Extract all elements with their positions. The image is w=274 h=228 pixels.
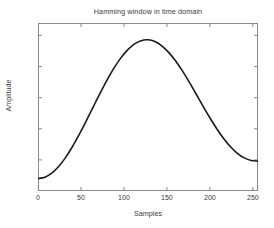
hamming-window-curve (38, 40, 258, 179)
y-axis-label: Amplitude (4, 66, 13, 126)
x-tick-label: 0 (36, 194, 40, 201)
chart-title: Hamming window in time domain (38, 7, 258, 16)
x-tick-label: 250 (247, 194, 259, 201)
figure-canvas: Hamming window in time domain Amplitude … (0, 0, 274, 228)
x-tick-label: 50 (77, 194, 85, 201)
x-tick-label: 100 (118, 194, 130, 201)
axes-box (39, 24, 258, 191)
chart-plot-svg (38, 23, 258, 191)
tick-marks (38, 23, 258, 191)
x-tick-label: 150 (161, 194, 173, 201)
x-tick-label: 200 (204, 194, 216, 201)
plot-axes (38, 23, 258, 191)
x-axis-label: Samples (38, 209, 258, 218)
